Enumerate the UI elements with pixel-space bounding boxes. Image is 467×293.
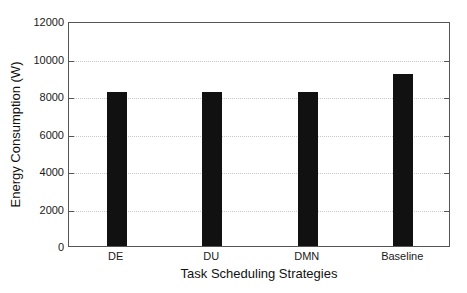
y-tick-mark [444, 211, 449, 212]
y-tick-mark [444, 136, 449, 137]
x-tick-label: Baseline [381, 251, 423, 262]
y-tick-label: 4000 [0, 167, 64, 178]
y-tick-mark [444, 98, 449, 99]
y-tick-mark [69, 61, 74, 62]
x-tick-label: DMN [294, 251, 319, 262]
y-tick-label: 0 [0, 242, 64, 253]
bar [202, 92, 222, 246]
y-tick-mark [69, 136, 74, 137]
y-tick-mark [69, 211, 74, 212]
bar [298, 92, 318, 246]
gridline [69, 61, 449, 62]
y-tick-mark [444, 173, 449, 174]
x-tick-label: DU [203, 251, 219, 262]
y-tick-label: 10000 [0, 54, 64, 65]
y-tick-label: 8000 [0, 92, 64, 103]
y-tick-mark [69, 98, 74, 99]
y-tick-label: 2000 [0, 204, 64, 215]
x-tick-label: DE [108, 251, 123, 262]
y-tick-label: 6000 [0, 129, 64, 140]
y-tick-mark [69, 173, 74, 174]
y-tick-mark [444, 61, 449, 62]
x-axis-title: Task Scheduling Strategies [68, 266, 450, 281]
plot-area [68, 22, 450, 247]
bar [393, 74, 413, 247]
bar-chart-figure: Energy Consumption (W) 02000400060008000… [0, 0, 467, 293]
y-tick-label: 12000 [0, 17, 64, 28]
bar [107, 92, 127, 246]
